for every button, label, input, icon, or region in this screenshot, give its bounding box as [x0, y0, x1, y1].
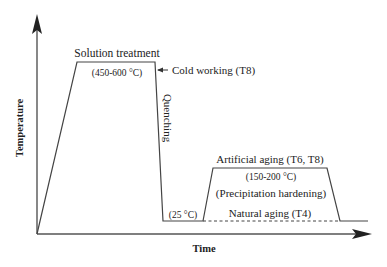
cold-working-label: Cold working (T8) [172, 64, 255, 77]
room-temp-label: (25 °C) [169, 210, 197, 221]
solution-temp-range: (450-600 °C) [92, 68, 143, 79]
cold-working-arrow-icon [157, 68, 163, 73]
natural-aging-label: Natural aging (T4) [229, 207, 312, 220]
precipitation-hardening-label: (Precipitation hardening) [216, 187, 327, 200]
y-axis-label: Temperature [14, 99, 25, 158]
x-axis-label: Time [192, 243, 215, 254]
solution-treatment-label: Solution treatment [74, 47, 160, 59]
quenching-label: Quenching [162, 94, 174, 143]
heat-treatment-diagram: Solution treatment (450-600 °C) Cold wor… [0, 0, 387, 267]
artificial-aging-temp-range: (150-200 °C) [246, 172, 297, 183]
temperature-profile [37, 62, 368, 234]
artificial-aging-label: Artificial aging (T6, T8) [216, 153, 324, 166]
